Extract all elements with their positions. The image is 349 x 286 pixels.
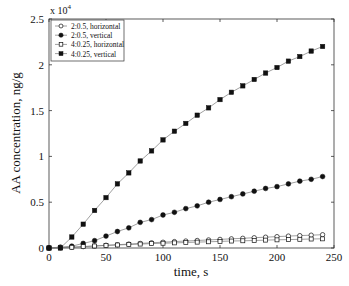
filled-square-marker (58, 246, 62, 250)
series-line (49, 47, 323, 249)
filled-circle-marker (138, 220, 143, 225)
y-tick-label: 1 (39, 150, 45, 162)
filled-circle-marker (263, 186, 268, 191)
filled-circle-marker (309, 177, 314, 182)
series-layer (47, 44, 325, 250)
open-square-marker (275, 238, 279, 242)
open-square-marker (218, 239, 222, 243)
open-square-marker (161, 241, 165, 245)
filled-square-marker (263, 71, 267, 75)
x-tick-label: 100 (155, 251, 172, 263)
open-square-marker (138, 242, 142, 246)
chart: 05010015020025000.511.522.5 time, s AA c… (0, 0, 349, 286)
y-multiplier-exponent: 4 (68, 3, 72, 11)
filled-square-marker (161, 138, 165, 142)
open-circle-marker (320, 233, 324, 237)
filled-square-marker (47, 246, 51, 250)
x-tick-label: 150 (212, 251, 229, 263)
y-tick-label: 2.5 (30, 13, 44, 25)
open-square-marker (115, 243, 119, 247)
filled-square-marker (59, 52, 63, 56)
y-tick-label: 0.5 (30, 196, 44, 208)
filled-circle-marker (161, 213, 166, 218)
open-square-marker (59, 43, 63, 47)
legend-label: 4:0.25, vertical (71, 50, 116, 59)
open-square-marker (195, 240, 199, 244)
open-square-marker (321, 237, 325, 241)
filled-square-marker (275, 65, 279, 69)
filled-circle-marker (218, 197, 223, 202)
x-tick-label: 50 (101, 251, 113, 263)
filled-square-marker (92, 208, 96, 212)
open-circle-marker (59, 24, 63, 28)
y-tick-label: 0 (39, 242, 45, 254)
filled-circle-marker (115, 229, 120, 234)
x-tick-label: 200 (269, 251, 286, 263)
series-line (49, 177, 323, 248)
y-multiplier-label: x 104 (50, 3, 72, 16)
filled-square-marker (241, 84, 245, 88)
filled-circle-marker (240, 192, 245, 197)
x-tick-label: 250 (326, 251, 343, 263)
filled-square-marker (184, 121, 188, 125)
filled-square-marker (138, 159, 142, 163)
open-square-marker (93, 244, 97, 248)
x-tick-label: 0 (46, 251, 52, 263)
legend-label: 2:0.5, horizontal (71, 22, 120, 31)
filled-square-marker (195, 113, 199, 117)
filled-circle-marker (229, 194, 234, 199)
filled-circle-marker (275, 184, 280, 189)
filled-square-marker (172, 129, 176, 133)
filled-circle-marker (286, 181, 291, 186)
filled-square-marker (320, 44, 324, 48)
open-square-marker (252, 238, 256, 242)
filled-square-marker (115, 182, 119, 186)
x-axis-label: time, s (174, 264, 209, 279)
filled-circle-marker (149, 217, 154, 222)
y-tick-label: 1.5 (30, 105, 44, 117)
filled-circle-marker (297, 179, 302, 184)
filled-square-marker (81, 222, 85, 226)
open-square-marker (127, 243, 131, 247)
open-square-marker (241, 239, 245, 243)
filled-circle-marker (172, 210, 177, 215)
filled-circle-marker (320, 174, 325, 179)
legend-label: 4:0.25, horizontal (71, 40, 124, 49)
filled-circle-marker (104, 234, 109, 239)
filled-square-marker (229, 90, 233, 94)
series-4-0-25-vertical (47, 44, 325, 250)
legend-label: 2:0.5, vertical (71, 31, 112, 40)
filled-circle-marker (126, 225, 131, 230)
y-axis-label: AA concentration, ng/g (8, 72, 23, 194)
filled-square-marker (127, 171, 131, 175)
filled-square-marker (252, 77, 256, 81)
filled-circle-marker (92, 238, 97, 243)
filled-square-marker (149, 149, 153, 153)
y-multiplier-base: x 10 (50, 5, 68, 16)
open-square-marker (207, 240, 211, 244)
filled-square-marker (70, 235, 74, 239)
filled-circle-marker (183, 206, 188, 211)
y-tick-label: 2 (39, 59, 45, 71)
filled-circle-marker (206, 200, 211, 205)
open-square-marker (264, 238, 268, 242)
filled-circle-marker (59, 33, 63, 37)
filled-square-marker (104, 195, 108, 199)
open-square-marker (184, 241, 188, 245)
open-square-marker (150, 242, 154, 246)
open-square-marker (298, 237, 302, 241)
open-square-marker (70, 245, 74, 249)
open-square-marker (172, 241, 176, 245)
open-square-marker (286, 238, 290, 242)
filled-circle-marker (195, 203, 200, 208)
open-square-marker (229, 239, 233, 243)
open-square-marker (104, 243, 108, 247)
filled-square-marker (298, 54, 302, 58)
filled-square-marker (309, 49, 313, 53)
legend: 2:0.5, horizontal2:0.5, vertical4:0.25, … (51, 20, 124, 61)
open-square-marker (81, 245, 85, 249)
filled-square-marker (206, 106, 210, 110)
open-square-marker (309, 237, 313, 241)
filled-square-marker (218, 97, 222, 101)
filled-square-marker (286, 59, 290, 63)
